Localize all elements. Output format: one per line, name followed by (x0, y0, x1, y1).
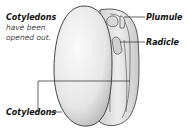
label-cotyledons-note-2: opened out. (6, 33, 56, 43)
label-radicle: Radicle (146, 38, 179, 48)
label-cotyledons-bottom: Cotyledons (6, 108, 56, 118)
label-cotyledons-title: Cotyledons (6, 13, 56, 22)
label-plumule: Plumule (146, 13, 183, 23)
label-cotyledons-opened: Cotyledons have been opened out. (6, 13, 56, 42)
label-cotyledons-note-1: have been (6, 23, 56, 33)
bean-seed-diagram: Cotyledons have been opened out. Plumule… (0, 0, 188, 130)
plumule-shape (107, 16, 118, 27)
front-cotyledon (54, 6, 112, 126)
